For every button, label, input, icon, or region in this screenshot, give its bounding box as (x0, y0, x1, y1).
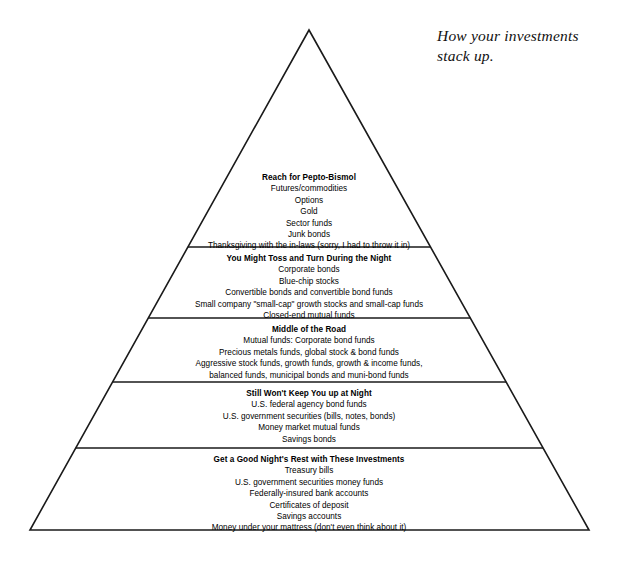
tier-item: Futures/commodities (109, 183, 509, 194)
tier-item: Junk bonds (109, 229, 509, 240)
tier-item: Options (109, 195, 509, 206)
tier-item: Savings accounts (49, 511, 569, 522)
tier-title: Get a Good Night's Rest with These Inves… (49, 454, 569, 465)
tier-title: Middle of the Road (79, 324, 539, 335)
pyramid-tier-you-might-toss-and-turn-during-the-night: You Might Toss and Turn During the Night… (99, 253, 519, 321)
pyramid-tier-get-a-good-nights-rest-with-these-investments: Get a Good Night's Rest with These Inves… (49, 454, 569, 534)
tier-title: Reach for Pepto-Bismol (109, 172, 509, 183)
tier-title: Still Won't Keep You up at Night (69, 388, 549, 399)
tier-item: Blue-chip stocks (99, 276, 519, 287)
tier-item: Treasury bills (49, 465, 569, 476)
tier-item: U.S. government securities (bills, notes… (69, 411, 549, 422)
diagram-canvas: How your investments stack up. Reach for… (0, 0, 620, 563)
tier-item: Sector funds (109, 218, 509, 229)
tier-item: Money market mutual funds (69, 422, 549, 433)
tier-item: Small company "small-cap" growth stocks … (99, 299, 519, 310)
pyramid-tier-reach-for-pepto-bismol: Reach for Pepto-Bismol Futures/commoditi… (109, 172, 509, 252)
tier-item: Mutual funds: Corporate bond funds (79, 335, 539, 346)
tier-item: Convertible bonds and convertible bond f… (99, 287, 519, 298)
tier-item: Certificates of deposit (49, 500, 569, 511)
tier-item: balanced funds, municipal bonds and muni… (79, 370, 539, 381)
pyramid-tier-middle-of-the-road: Middle of the Road Mutual funds: Corpora… (79, 324, 539, 381)
tier-item: Precious metals funds, global stock & bo… (79, 347, 539, 358)
tier-item: U.S. government securities money funds (49, 477, 569, 488)
tier-item: Federally-insured bank accounts (49, 488, 569, 499)
tier-item: Money under your mattress (don't even th… (49, 522, 569, 533)
tier-item: Corporate bonds (99, 264, 519, 275)
tier-item: Savings bonds (69, 434, 549, 445)
tier-title: You Might Toss and Turn During the Night (99, 253, 519, 264)
tier-item: Aggressive stock funds, growth funds, gr… (79, 358, 539, 369)
tier-item: U.S. federal agency bond funds (69, 399, 549, 410)
tier-item: Gold (109, 206, 509, 217)
pyramid-tier-still-wont-keep-you-up-at-night: Still Won't Keep You up at Night U.S. fe… (69, 388, 549, 445)
tier-item: Thanksgiving with the in-laws (sorry, I … (109, 240, 509, 251)
tier-item: Closed-end mutual funds (99, 310, 519, 321)
